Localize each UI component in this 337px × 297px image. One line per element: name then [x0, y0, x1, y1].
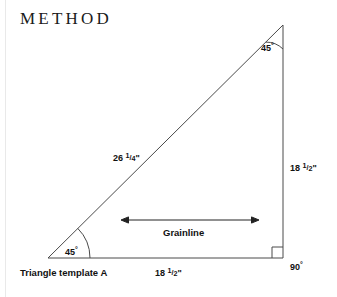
figure-page: METHOD 45° 45° 90° 26 1/4" 18 1/2" 18 1/…	[0, 0, 337, 297]
angle-label-top-right: 45°	[261, 42, 274, 53]
grainline-arrow	[121, 217, 259, 223]
angle-label-bottom-right: 90°	[290, 261, 303, 272]
angle-label-bottom-left: 45°	[65, 246, 78, 257]
triangle-template-figure	[0, 0, 337, 297]
triangle-side-hypotenuse	[48, 25, 283, 258]
dimension-label-vertical-leg: 18 1/2"	[290, 163, 317, 173]
grainline-label: Grainline	[163, 228, 204, 238]
angle-square-bottom-right	[272, 247, 283, 258]
figure-caption: Triangle template A	[20, 268, 107, 278]
grainline-arrowhead-right	[252, 217, 260, 223]
dimension-label-hypotenuse: 26 1/4"	[113, 153, 140, 163]
grainline-arrowhead-left	[121, 217, 129, 223]
triangle-outline	[48, 25, 283, 258]
angle-arc-bottom-left	[78, 228, 90, 258]
dimension-label-base-leg: 18 1/2"	[155, 268, 182, 278]
